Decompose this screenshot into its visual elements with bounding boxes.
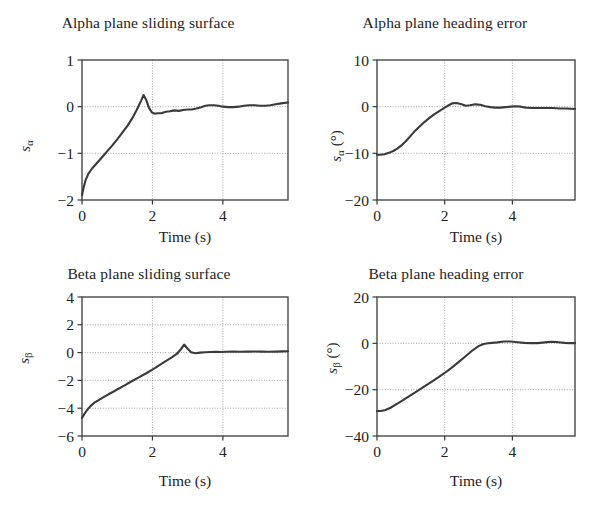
y-axis-label: sβ (16, 328, 34, 388)
y-axis-label: sα (°) (328, 116, 346, 176)
plot-area: 02410−1−2 (0, 14, 296, 264)
y-tick-label: 1 (66, 52, 74, 69)
plot-frame (377, 60, 575, 200)
y-tick-label: −4 (58, 400, 75, 417)
data-series-line (377, 103, 575, 155)
y-tick-label: 0 (66, 98, 74, 115)
y-tick-label: 20 (354, 289, 370, 306)
y-tick-label: −6 (58, 428, 75, 445)
x-tick-label: 0 (78, 207, 86, 224)
x-tick-label: 2 (149, 443, 157, 460)
x-tick-label: 4 (219, 207, 227, 224)
x-tick-label: 2 (441, 207, 449, 224)
y-tick-label: −2 (58, 372, 75, 389)
panel-alpha-sliding-surface: Alpha plane sliding surface 02410−1−2 sα… (0, 14, 296, 264)
y-tick-label: 10 (354, 52, 370, 69)
x-axis-label: Time (s) (82, 228, 288, 246)
y-axis-label: sβ (°) (324, 328, 342, 388)
y-tick-label: 4 (66, 289, 74, 306)
plot-frame (82, 60, 288, 200)
x-axis-label: Time (s) (377, 472, 575, 490)
panel-beta-sliding-surface: Beta plane sliding surface 024420−2−4−6 … (0, 265, 296, 515)
x-axis-label: Time (s) (377, 228, 575, 246)
x-tick-label: 4 (219, 443, 227, 460)
plot-frame (82, 297, 288, 436)
data-series-line (82, 345, 288, 418)
y-tick-label: −1 (58, 145, 75, 162)
data-series-line (82, 95, 288, 195)
y-tick-label: −20 (345, 192, 369, 209)
plot-frame (377, 297, 575, 436)
y-axis-label-symbol: s (16, 358, 32, 364)
y-tick-label: 0 (361, 98, 369, 115)
figure-panel-grid: Alpha plane sliding surface 02410−1−2 sα… (0, 0, 593, 529)
x-tick-label: 0 (78, 443, 86, 460)
y-tick-label: −10 (345, 145, 369, 162)
x-tick-label: 0 (373, 207, 381, 224)
y-tick-label: 2 (66, 316, 74, 333)
y-axis-label-unit: (°) (324, 342, 340, 362)
y-axis-label-subscript: α (23, 140, 35, 146)
y-axis-label-symbol: s (17, 146, 33, 152)
x-tick-label: 2 (441, 443, 449, 460)
x-tick-label: 0 (373, 443, 381, 460)
y-axis-label-symbol: s (328, 156, 344, 162)
panel-alpha-heading-error: Alpha plane heading error 024100−10−20 s… (297, 14, 593, 264)
y-axis-label-subscript: α (334, 150, 346, 156)
data-series-line (377, 341, 575, 410)
y-tick-label: 0 (66, 344, 74, 361)
y-tick-label: −40 (345, 428, 369, 445)
panel-beta-heading-error: Beta plane heading error 024200−20−40 sβ… (297, 265, 593, 515)
y-tick-label: −2 (58, 192, 75, 209)
x-tick-label: 4 (509, 443, 517, 460)
y-tick-label: 0 (361, 335, 369, 352)
y-axis-label: sα (17, 116, 35, 176)
x-axis-label: Time (s) (82, 472, 288, 490)
x-tick-label: 2 (149, 207, 157, 224)
y-axis-label-unit: (°) (328, 130, 344, 150)
y-axis-label-subscript: β (22, 352, 34, 358)
x-tick-label: 4 (509, 207, 517, 224)
y-axis-label-subscript: β (330, 362, 342, 368)
y-axis-label-symbol: s (324, 368, 340, 374)
y-tick-label: −20 (345, 381, 369, 398)
